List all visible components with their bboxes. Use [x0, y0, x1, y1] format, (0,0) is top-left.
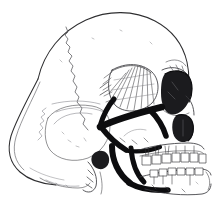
tooth-lower-1	[150, 170, 158, 177]
tooth-upper-6	[190, 153, 198, 162]
tooth-upper-2	[152, 155, 161, 164]
tooth-lower-2	[159, 169, 167, 176]
tooth-lower-5	[186, 168, 194, 175]
skull-illustration	[0, 0, 217, 212]
tooth-upper-7	[199, 154, 206, 163]
tooth-upper-3	[162, 154, 171, 163]
tooth-lower-6	[195, 168, 203, 175]
tooth-lower-4	[177, 168, 185, 175]
tooth-upper-4	[172, 153, 180, 162]
skull-lateral-drawing	[0, 0, 217, 212]
tooth-lower-3	[168, 168, 176, 175]
tooth-upper-5	[181, 153, 189, 162]
tooth-upper-1	[142, 156, 151, 165]
